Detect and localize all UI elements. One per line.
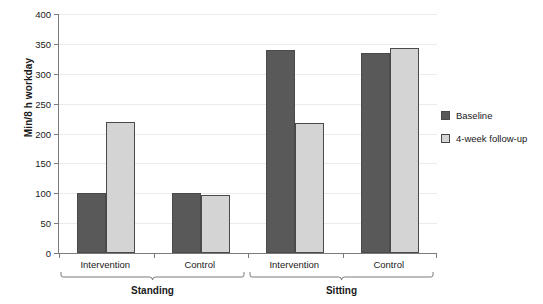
- bar: [266, 50, 295, 253]
- bar: [201, 195, 230, 253]
- bar: [77, 193, 106, 253]
- x-category-label: Control: [373, 259, 404, 270]
- legend-swatch-baseline: [441, 111, 450, 120]
- legend-label-followup: 4-week follow-up: [456, 133, 527, 144]
- y-tick-label: 250: [35, 98, 51, 109]
- legend-item-baseline[interactable]: Baseline: [441, 110, 527, 121]
- y-tick-label: 350: [35, 38, 51, 49]
- x-axis-tick: [436, 253, 437, 258]
- bar: [295, 123, 324, 253]
- x-axis-tick: [343, 253, 344, 258]
- legend-label-baseline: Baseline: [456, 110, 492, 121]
- plot-area: 400350300250200150100500: [58, 14, 437, 254]
- supergroup-brace: [249, 272, 434, 283]
- y-tick-label: 0: [46, 248, 51, 259]
- bars-layer: [59, 14, 437, 253]
- bar: [390, 48, 419, 253]
- x-axis-tick: [154, 253, 155, 258]
- bar: [172, 193, 201, 253]
- bar: [106, 122, 135, 253]
- x-category-label: Intervention: [80, 259, 130, 270]
- supergroup-label: Standing: [131, 285, 174, 296]
- supergroup-label: Sitting: [326, 285, 357, 296]
- y-tick-label: 150: [35, 158, 51, 169]
- legend-swatch-followup: [441, 134, 450, 143]
- bar-chart: Min/8 h workday 400350300250200150100500…: [0, 0, 543, 304]
- supergroup-brace: [60, 272, 245, 283]
- x-axis-tick: [248, 253, 249, 258]
- y-axis-title: Min/8 h workday: [23, 18, 34, 178]
- bar: [361, 53, 390, 253]
- y-tick-label: 100: [35, 188, 51, 199]
- y-tick-label: 50: [40, 218, 51, 229]
- legend-item-followup[interactable]: 4-week follow-up: [441, 133, 527, 144]
- x-category-label: Control: [184, 259, 215, 270]
- y-tick-label: 300: [35, 68, 51, 79]
- legend: Baseline 4-week follow-up: [441, 110, 527, 156]
- y-tick-label: 400: [35, 9, 51, 20]
- x-axis-tick: [59, 253, 60, 258]
- y-tick-label: 200: [35, 128, 51, 139]
- x-category-label: Intervention: [269, 259, 319, 270]
